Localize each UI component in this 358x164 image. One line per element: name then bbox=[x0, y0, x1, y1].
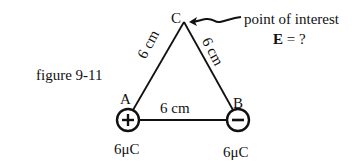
point-of-interest-label: point of interest bbox=[244, 12, 339, 27]
field-question-label: E = ? bbox=[273, 32, 306, 47]
field-question: = ? bbox=[283, 31, 306, 47]
figure-caption: figure 9-11 bbox=[36, 68, 103, 83]
vertex-a-label: A bbox=[120, 92, 131, 107]
vertex-c-label: C bbox=[171, 11, 181, 26]
charge-b-value: 6μC bbox=[223, 145, 249, 160]
side-bc bbox=[184, 22, 233, 110]
vertex-b-label: B bbox=[233, 96, 243, 111]
field-symbol: E bbox=[273, 31, 283, 47]
side-ab-length: 6 cm bbox=[160, 101, 190, 116]
charge-a-value: 6μC bbox=[114, 142, 140, 157]
pointer-arrow-icon bbox=[189, 17, 241, 26]
negative-charge-icon bbox=[227, 109, 249, 131]
positive-charge-icon bbox=[117, 109, 139, 131]
